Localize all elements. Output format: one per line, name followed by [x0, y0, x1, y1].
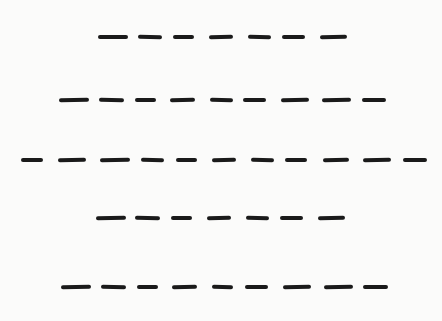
- dash-stroke: [322, 98, 351, 103]
- dash-stroke: [58, 158, 86, 163]
- dash-stroke: [96, 216, 126, 221]
- dash-stroke: [173, 35, 194, 39]
- dash-stroke: [246, 216, 269, 221]
- dash-stroke: [100, 158, 130, 163]
- dash-stroke: [170, 98, 195, 103]
- dash-stroke: [248, 35, 271, 40]
- dash-stroke: [176, 158, 197, 162]
- dash-stroke: [283, 285, 311, 289]
- dash-stroke: [207, 216, 231, 221]
- dash-stroke: [318, 216, 345, 220]
- dash-stroke: [135, 216, 160, 220]
- dash-stroke: [135, 98, 156, 102]
- dash-stroke: [363, 158, 391, 162]
- dash-stroke: [138, 35, 162, 39]
- dash-stroke: [212, 158, 236, 163]
- dash-stroke: [172, 285, 197, 290]
- dash-stroke: [245, 285, 268, 289]
- dash-stroke: [137, 285, 158, 289]
- dash-stroke: [212, 285, 233, 290]
- dash-stroke: [101, 285, 126, 289]
- dash-stroke: [98, 35, 128, 39]
- dash-stroke: [362, 98, 386, 102]
- dash-stroke: [210, 98, 233, 103]
- dash-stroke: [285, 158, 307, 162]
- dash-stroke: [282, 35, 305, 39]
- dash-stroke: [403, 158, 427, 162]
- dash-stroke: [141, 158, 164, 162]
- dash-stroke: [99, 98, 124, 102]
- dash-stroke: [171, 216, 192, 220]
- dash-stroke: [320, 35, 347, 39]
- dash-stroke: [323, 158, 349, 163]
- dash-stroke: [243, 98, 266, 102]
- dash-stroke: [21, 158, 43, 162]
- dash-stroke: [363, 285, 388, 289]
- dash-stroke: [209, 35, 233, 40]
- dash-stroke: [61, 285, 91, 290]
- dash-stroke: [281, 98, 309, 102]
- dash-stroke: [280, 216, 303, 220]
- dash-stroke: [324, 285, 353, 290]
- dash-stroke: [251, 158, 274, 163]
- dash-rows-figure: [0, 0, 442, 321]
- dash-stroke: [59, 98, 89, 103]
